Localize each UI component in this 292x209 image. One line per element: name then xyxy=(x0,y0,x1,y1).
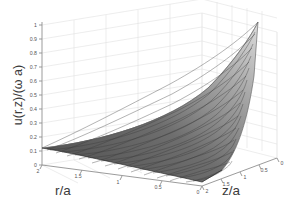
z-tick-label: 1 xyxy=(34,22,37,28)
z-tick-label: 0.6 xyxy=(30,78,37,84)
z-tick-labels: 0 0.1 0.2 0.3 0.4 0.5 0.6 0.7 0.8 0.9 1 xyxy=(30,22,37,168)
x-tick-label: 0.5 xyxy=(154,184,161,190)
z-tick-label: 0.5 xyxy=(30,92,37,98)
x-tick-label: 1 xyxy=(117,179,120,185)
z-tick-label: 0.8 xyxy=(30,50,37,56)
y-tick-label: 0 xyxy=(281,160,284,166)
x-tick-label: 0 xyxy=(197,189,200,195)
surface-plot-figure: 0 0.1 0.2 0.3 0.4 0.5 0.6 0.7 0.8 0.9 1 … xyxy=(0,0,292,209)
x-tick-label: 2 xyxy=(37,168,40,174)
z-tick-label: 0.4 xyxy=(30,106,37,112)
z-tick-label: 0.1 xyxy=(30,148,37,154)
z-axis-title: u(r,z)/(ω a) xyxy=(11,47,25,143)
z-tick-label: 0.3 xyxy=(30,120,37,126)
x-tick-label: 1.5 xyxy=(74,173,81,179)
x-axis-title: r/a xyxy=(55,183,71,198)
z-tick-label: 0.9 xyxy=(30,36,37,42)
y-tick-label: 1 xyxy=(244,174,247,180)
y-axis-title: z/a xyxy=(222,183,240,198)
plot-canvas: 0 0.1 0.2 0.3 0.4 0.5 0.6 0.7 0.8 0.9 1 … xyxy=(0,0,292,209)
y-tick-label: 2 xyxy=(206,188,209,194)
surface-mesh xyxy=(42,22,258,182)
y-tick-label: 0.5 xyxy=(260,167,267,173)
z-tick-label: 0.2 xyxy=(30,134,37,140)
z-tick-label: 0.7 xyxy=(30,64,37,70)
